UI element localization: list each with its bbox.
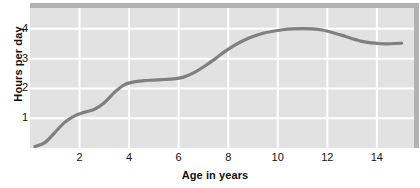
x-tick-label-4: 4 <box>114 152 144 163</box>
x-tick-label-10: 10 <box>263 152 293 163</box>
data-line-series <box>30 8 414 148</box>
x-tick-label-12: 12 <box>312 152 342 163</box>
x-tick-label-6: 6 <box>164 152 194 163</box>
plot-area <box>30 8 414 148</box>
x-tick-label-8: 8 <box>213 152 243 163</box>
x-axis-tick-labels: 2468101214 <box>30 152 414 168</box>
x-tick-label-2: 2 <box>65 152 95 163</box>
line-chart-figure: 1234 2468101214 Hours per day Age in yea… <box>0 0 420 188</box>
x-axis-title: Age in years <box>30 169 400 181</box>
x-tick-label-14: 14 <box>362 152 392 163</box>
y-axis-title: Hours per day <box>12 4 24 124</box>
plot-shadow-right-edge <box>414 3 419 148</box>
